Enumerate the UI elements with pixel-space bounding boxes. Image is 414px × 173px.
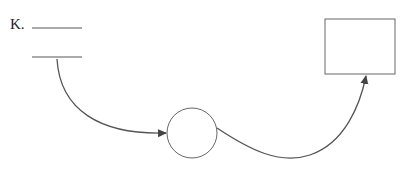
arrow-circle-to-box xyxy=(217,76,366,158)
diagram-canvas xyxy=(0,0,414,173)
arrow-line-to-circle xyxy=(57,59,166,133)
process-circle xyxy=(167,108,217,158)
target-box xyxy=(325,19,395,74)
